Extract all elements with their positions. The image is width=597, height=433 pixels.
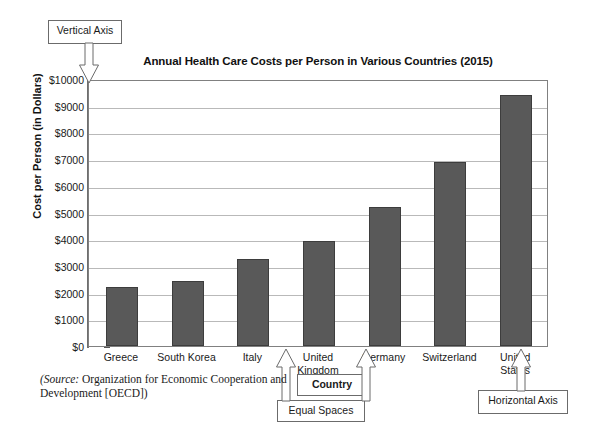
bar [303,241,335,347]
gridline [89,188,547,189]
callout-equal-spaces: Equal Spaces [277,400,365,422]
gridline [89,108,547,109]
gridline [89,215,547,216]
bar [106,287,138,346]
callout-vertical-axis: Vertical Axis [48,20,122,44]
callout-horizontal-axis-arrow [510,348,532,392]
plot-area [88,80,548,347]
y-axis-tick-label: $1000 [28,315,84,325]
chart-title: Annual Health Care Costs per Person in V… [88,55,548,67]
gridline [89,134,547,135]
bar [369,207,401,346]
bar [237,259,269,346]
bar [172,281,204,346]
gridline [89,161,547,162]
bar [434,162,466,346]
callout-equal-spaces-arrow-right [355,348,377,402]
y-axis-title: Cost per Person (in Dollars) [31,21,43,271]
y-axis-tick-label: $2000 [28,289,84,299]
y-axis-major-tick [104,347,110,348]
source-label: (Source: [40,373,79,385]
source-note: (Source: Organization for Economic Coope… [40,372,310,400]
callout-vertical-axis-arrow [78,43,100,85]
callout-horizontal-axis: Horizontal Axis [478,390,568,414]
bar [500,95,532,346]
